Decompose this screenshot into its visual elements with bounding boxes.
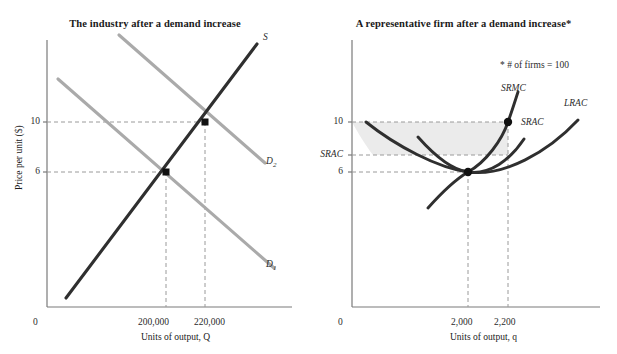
industry-y-axis-label: Price per unit ($) (14, 125, 24, 190)
industry-panel: The industry after a demand increase (0, 0, 310, 354)
firm-ytick-label-srac: SRAC (310, 149, 343, 159)
firm-xtick-label-2200: 2,200 (494, 317, 515, 327)
firm-long-run-point (464, 168, 472, 176)
supply-curve-s (66, 44, 257, 298)
firm-panel: A representative firm after a demand inc… (310, 0, 617, 354)
demand-d2-base: D (266, 156, 273, 166)
industry-origin-label: 0 (33, 317, 38, 327)
demand-curve-d1-label: D1 (266, 259, 276, 272)
industry-plot (0, 0, 310, 354)
supply-curve-label: S (263, 32, 268, 42)
demand-curve-d2-label: D2 (266, 156, 276, 169)
srac-curve-label: SRAC (521, 117, 544, 127)
lrac-curve-label: LRAC (564, 98, 587, 108)
figure-root: The industry after a demand increase (0, 0, 617, 354)
firm-ytick-label-6: 6 (320, 166, 343, 176)
firm-ytick-label-10: 10 (320, 116, 343, 126)
firm-short-run-profit-point (504, 118, 512, 126)
industry-ytick-label-6: 6 (18, 166, 40, 176)
demand-d1-subscript: 1 (273, 264, 277, 272)
demand-d2-subscript: 2 (273, 161, 277, 169)
industry-equilibrium-point-new (202, 119, 209, 126)
industry-x-axis-label: Units of output, Q (141, 332, 210, 342)
demand-d1-base: D (266, 259, 273, 269)
firm-xtick-label-2000: 2,000 (451, 317, 472, 327)
firm-origin-label: 0 (338, 317, 343, 327)
srmc-curve-label: SRMC (501, 83, 526, 93)
industry-xtick-label-200000: 200,000 (138, 317, 169, 327)
demand-curve-d2 (119, 35, 265, 163)
industry-equilibrium-point-initial (163, 169, 170, 176)
firm-plot (310, 0, 617, 354)
industry-xtick-label-220000: 220,000 (194, 317, 225, 327)
industry-ytick-label-10: 10 (18, 116, 40, 126)
firm-x-axis-label: Units of output, q (450, 332, 517, 342)
